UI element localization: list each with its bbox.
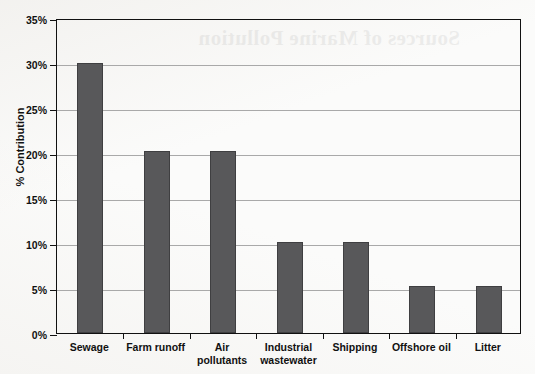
y-tick-mark bbox=[50, 245, 57, 246]
gridline bbox=[57, 200, 520, 201]
bar bbox=[277, 242, 303, 333]
y-tick-label: 35% bbox=[26, 14, 47, 26]
bar bbox=[144, 151, 170, 333]
x-category-label-line: Farm runoff bbox=[122, 341, 188, 354]
x-category-label-line: Sewage bbox=[56, 341, 122, 354]
y-tick-label: 0% bbox=[32, 329, 47, 341]
bar bbox=[210, 151, 236, 333]
y-tick-mark bbox=[50, 200, 57, 201]
x-category-label-line: Industrial bbox=[255, 341, 321, 354]
x-category-label-line: Offshore oil bbox=[388, 341, 454, 354]
x-category-label-line: Shipping bbox=[322, 341, 388, 354]
y-tick-mark bbox=[50, 335, 57, 336]
y-tick-mark bbox=[50, 20, 57, 21]
bar bbox=[409, 286, 435, 333]
x-category-label-line: wastewater bbox=[255, 354, 321, 367]
x-category-label: Industrialwastewater bbox=[255, 341, 321, 366]
x-category-label: Litter bbox=[455, 341, 521, 354]
x-category-label: Offshore oil bbox=[388, 341, 454, 354]
x-category-label-line: Air bbox=[189, 341, 255, 354]
gridline bbox=[57, 65, 520, 66]
y-tick-label: 30% bbox=[26, 59, 47, 71]
x-tick-mark bbox=[456, 333, 457, 339]
y-tick-label: 10% bbox=[26, 239, 47, 251]
x-tick-mark bbox=[190, 333, 191, 339]
bar-chart: % Contribution 0%5%10%15%20%25%30%35% Se… bbox=[0, 0, 535, 374]
y-tick-label: 5% bbox=[32, 284, 47, 296]
gridline bbox=[57, 155, 520, 156]
x-tick-mark bbox=[389, 333, 390, 339]
x-category-label-line: pollutants bbox=[189, 354, 255, 367]
x-category-label: Shipping bbox=[322, 341, 388, 354]
y-tick-label: 15% bbox=[26, 194, 47, 206]
y-tick-label: 20% bbox=[26, 149, 47, 161]
y-tick-mark bbox=[50, 155, 57, 156]
gridline bbox=[57, 110, 520, 111]
y-tick-mark bbox=[50, 290, 57, 291]
x-tick-mark bbox=[256, 333, 257, 339]
y-axis-title: % Contribution bbox=[14, 67, 26, 227]
x-category-label-line: Litter bbox=[455, 341, 521, 354]
bar bbox=[77, 63, 103, 333]
x-tick-mark bbox=[123, 333, 124, 339]
bar bbox=[343, 242, 369, 333]
x-category-label: Airpollutants bbox=[189, 341, 255, 366]
plot-area: 0%5%10%15%20%25%30%35% bbox=[56, 19, 521, 334]
bar bbox=[476, 286, 502, 333]
x-tick-mark bbox=[323, 333, 324, 339]
y-tick-label: 25% bbox=[26, 104, 47, 116]
x-category-label: Farm runoff bbox=[122, 341, 188, 354]
x-category-label: Sewage bbox=[56, 341, 122, 354]
y-tick-mark bbox=[50, 65, 57, 66]
y-tick-mark bbox=[50, 110, 57, 111]
